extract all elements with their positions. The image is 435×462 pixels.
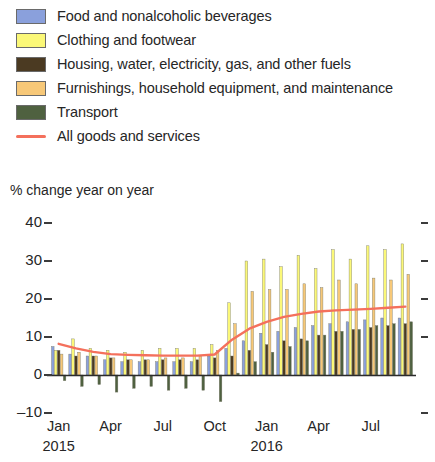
- chart-bar: [98, 375, 101, 385]
- chart-bar: [335, 331, 338, 375]
- x-tick-label: Jul: [361, 418, 380, 434]
- y-tick-label: 0: [6, 365, 42, 382]
- chart-bar: [358, 329, 361, 375]
- chart-bar: [338, 280, 341, 375]
- chart-bar: [51, 347, 54, 376]
- chart-bar: [259, 333, 262, 375]
- y-tick-mark: [44, 298, 52, 300]
- y-tick-mark: [44, 222, 52, 224]
- chart-bar: [289, 347, 292, 376]
- chart-bar: [323, 335, 326, 375]
- chart-bar: [196, 360, 199, 375]
- chart-bar: [112, 358, 115, 375]
- chart-canvas: [0, 0, 435, 462]
- x-tick-label: Jul: [153, 418, 172, 434]
- chart-bar: [115, 375, 118, 392]
- y-tick-mark-right: [421, 260, 428, 262]
- chart-bar: [387, 326, 390, 375]
- chart-bar: [121, 362, 124, 375]
- chart-bar: [210, 345, 213, 375]
- chart-bar: [341, 331, 344, 375]
- chart-bar: [207, 356, 210, 375]
- chart-bar: [306, 341, 309, 375]
- chart-bar: [147, 360, 150, 375]
- chart-bar: [75, 356, 78, 375]
- chart-bar: [329, 324, 332, 375]
- chart-bar: [346, 322, 349, 375]
- chart-bar: [199, 356, 202, 375]
- chart-bar: [349, 259, 352, 375]
- chart-bar: [320, 288, 323, 375]
- y-tick-mark-right: [421, 412, 428, 414]
- chart-bar: [155, 362, 158, 375]
- y-tick-mark-right: [421, 222, 428, 224]
- chart-bar: [164, 358, 167, 375]
- y-tick-mark-right: [421, 336, 428, 338]
- chart-bar: [311, 326, 314, 375]
- y-tick-label: –10: [6, 403, 42, 420]
- chart-bar: [190, 362, 193, 375]
- chart-bar: [390, 280, 393, 375]
- y-tick-mark: [44, 336, 52, 338]
- chart-bar: [280, 267, 283, 375]
- chart-bar: [69, 354, 72, 375]
- chart-bar: [193, 348, 196, 375]
- chart-bar: [176, 348, 179, 375]
- x-tick-label: Jan: [255, 418, 278, 434]
- x-year-label: 2016: [251, 438, 283, 454]
- x-tick-label: Jan: [47, 418, 70, 434]
- chart-plot-area: 403020100–10 JanAprJulOctJanAprJul201520…: [0, 0, 435, 462]
- y-tick-label: 20: [6, 289, 42, 306]
- chart-bar: [384, 250, 387, 375]
- chart-bar: [228, 303, 231, 375]
- chart-bar: [86, 356, 89, 375]
- chart-bar: [133, 375, 136, 388]
- chart-bar: [138, 362, 141, 375]
- chart-bar: [185, 375, 188, 388]
- chart-bar: [251, 291, 254, 375]
- chart-bar: [95, 356, 98, 375]
- chart-bar: [372, 278, 375, 375]
- chart-bar: [375, 326, 378, 375]
- chart-bar: [182, 358, 185, 375]
- y-tick-mark: [44, 374, 52, 376]
- y-tick-label: 40: [6, 213, 42, 230]
- y-tick-mark: [44, 260, 52, 262]
- chart-bar: [262, 259, 265, 375]
- chart-bar: [161, 360, 164, 375]
- chart-bar: [78, 352, 81, 375]
- chart-bar: [398, 318, 401, 375]
- chart-bar: [234, 324, 237, 375]
- x-tick-label: Apr: [99, 418, 122, 434]
- chart-bar: [294, 328, 297, 376]
- chart-bar: [369, 328, 372, 376]
- chart-bar: [352, 329, 355, 375]
- chart-bar: [404, 324, 407, 375]
- x-tick-label: Oct: [203, 418, 226, 434]
- y-tick-mark-right: [421, 298, 428, 300]
- chart-bar: [167, 375, 170, 390]
- chart-bar: [179, 360, 182, 375]
- chart-bar: [366, 246, 369, 375]
- chart-bar: [127, 360, 130, 375]
- chart-bar: [314, 269, 317, 375]
- chart-bar: [202, 375, 205, 390]
- chart-bar: [173, 362, 176, 375]
- chart-bar: [103, 360, 106, 375]
- y-tick-label: 30: [6, 251, 42, 268]
- chart-bar: [355, 284, 358, 375]
- chart-bar: [92, 356, 95, 375]
- chart-bar: [265, 345, 268, 375]
- chart-bar: [393, 324, 396, 375]
- chart-bar: [248, 350, 251, 375]
- chart-bar: [268, 290, 271, 376]
- chart-bar: [54, 350, 57, 375]
- x-year-label: 2015: [43, 438, 75, 454]
- chart-bar: [60, 354, 63, 375]
- chart-bar: [109, 358, 112, 375]
- chart-bar: [300, 339, 303, 375]
- chart-bar: [332, 250, 335, 375]
- chart-bar: [81, 375, 84, 386]
- y-tick-label: 10: [6, 327, 42, 344]
- chart-bar: [130, 360, 133, 375]
